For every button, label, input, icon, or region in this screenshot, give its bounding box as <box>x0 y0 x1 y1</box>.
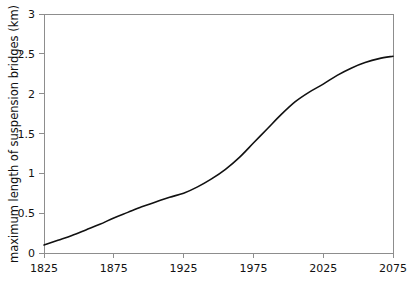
y-tick-label-6: 3 <box>28 8 35 21</box>
chart-figure: 0 0.5 1 1.5 2 2.5 3 1825 1875 1925 1975 … <box>0 0 419 292</box>
y-tick-label-4: 2 <box>28 88 35 101</box>
x-tick-label-0: 1825 <box>30 262 58 275</box>
x-tick-label-4: 2025 <box>309 262 337 275</box>
y-tick-label-2: 1 <box>28 167 35 180</box>
chart-background <box>0 0 419 292</box>
line-chart: 0 0.5 1 1.5 2 2.5 3 1825 1875 1925 1975 … <box>0 0 419 292</box>
x-tick-label-2: 1925 <box>170 262 198 275</box>
x-tick-label-5: 2075 <box>379 262 407 275</box>
x-tick-label-1: 1875 <box>100 262 128 275</box>
y-tick-label-0: 0 <box>28 247 35 260</box>
y-axis-title: maximum length of suspension bridges (km… <box>7 5 21 263</box>
x-tick-label-3: 1975 <box>239 262 267 275</box>
